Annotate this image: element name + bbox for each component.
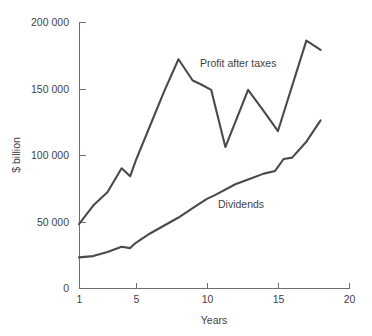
chart-container: 050 000100 000150 000200 00015101520 $ b… [0, 0, 372, 336]
y-tick-label: 50 000 [37, 216, 69, 228]
chart-series [79, 41, 321, 258]
series-annotation-dividends: Dividends [218, 198, 264, 210]
x-tick-label: 5 [134, 293, 140, 305]
y-tick-label: 150 000 [31, 83, 69, 95]
series-annotation-profit-after-taxes: Profit after taxes [200, 57, 276, 69]
x-tick-label: 15 [273, 293, 285, 305]
x-tick-label: 1 [77, 293, 83, 305]
x-tick-label: 20 [344, 293, 356, 305]
y-tick-label: 100 000 [31, 149, 69, 161]
series-line-dividends [79, 120, 321, 257]
chart-labels: $ billionYearsProfit after taxesDividend… [10, 57, 276, 326]
y-tick-label: 200 000 [31, 16, 69, 28]
y-axis-title: $ billion [10, 137, 22, 173]
x-tick-label: 10 [202, 293, 214, 305]
x-axis-title: Years [201, 314, 227, 326]
line-chart: 050 000100 000150 000200 00015101520 $ b… [0, 0, 372, 336]
y-tick-label: 0 [63, 282, 69, 294]
